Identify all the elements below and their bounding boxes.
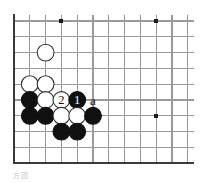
- stone-white: [21, 76, 38, 93]
- go-diagram: 21 a 方図: [0, 0, 211, 183]
- stone-black: [53, 123, 70, 140]
- stone-white: [37, 76, 54, 93]
- stone-move-number: 1: [74, 93, 80, 107]
- stone-white: [53, 107, 70, 124]
- stone-black: [85, 107, 102, 124]
- stone-disc: [37, 76, 54, 93]
- stone-disc: [21, 92, 38, 109]
- stone-black: [21, 107, 38, 124]
- stone-black: [37, 107, 54, 124]
- diagram-caption: 方図: [13, 172, 29, 180]
- stone-black: [69, 123, 86, 140]
- star-point: [59, 19, 63, 23]
- stone-disc: [69, 107, 86, 124]
- point-labels-layer: a: [90, 93, 96, 108]
- stone-white: [37, 92, 54, 109]
- stone-black: 1: [69, 92, 86, 109]
- stone-disc: [37, 92, 54, 109]
- go-board: 21 a: [0, 0, 211, 183]
- stone-disc: [37, 107, 54, 124]
- stone-disc: [69, 123, 86, 140]
- star-point: [154, 19, 158, 23]
- stone-disc: [21, 107, 38, 124]
- stone-disc: [85, 107, 102, 124]
- stone-disc: [37, 44, 54, 61]
- star-point: [154, 114, 158, 118]
- stone-white: [37, 44, 54, 61]
- stone-white: [69, 107, 86, 124]
- stone-disc: [53, 123, 70, 140]
- point-label-a: a: [90, 93, 96, 108]
- stone-disc: [21, 76, 38, 93]
- stone-disc: [53, 107, 70, 124]
- stone-move-number: 2: [58, 93, 64, 107]
- stone-white: 2: [53, 92, 70, 109]
- stone-black: [21, 92, 38, 109]
